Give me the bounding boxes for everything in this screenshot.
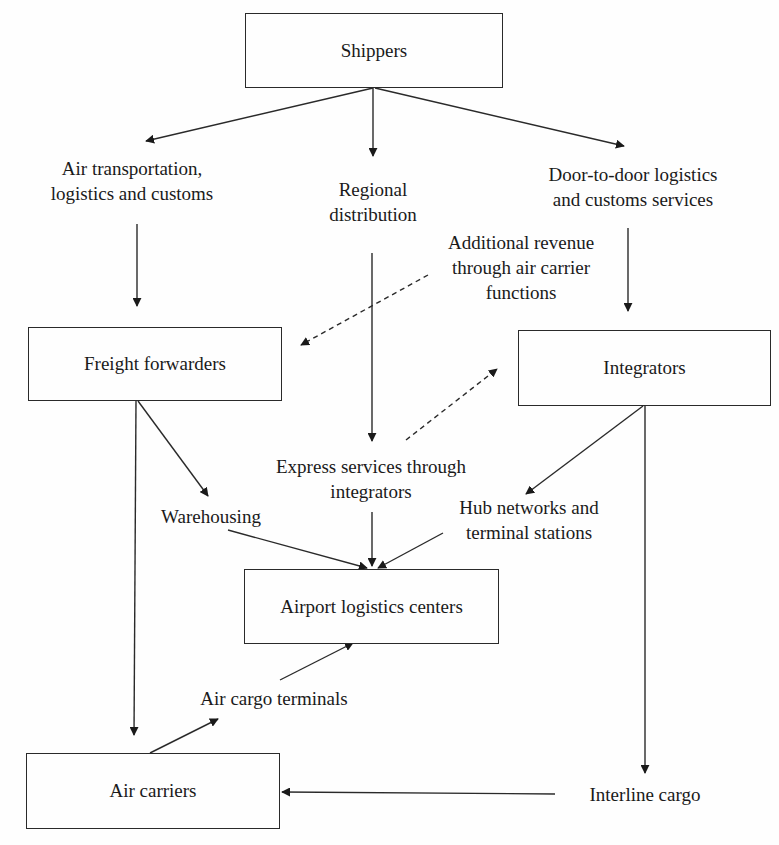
label-additional-revenue-line-3: functions	[448, 280, 594, 305]
arrow-warehousing-to-airport-logistics	[228, 530, 367, 568]
label-additional-revenue: Additional revenue through air carrier f…	[448, 230, 594, 305]
arrow-hub-networks-to-airport-logistics	[378, 533, 443, 568]
label-air-transportation-line-1: Air transportation,	[51, 156, 214, 181]
connector-arrows	[0, 0, 779, 845]
node-freight-forwarders-label: Freight forwarders	[84, 353, 226, 375]
arrow-air-cargo-terminals-to-airport-logistics	[280, 643, 353, 680]
node-integrators-label: Integrators	[603, 357, 685, 379]
label-express-services-line-2: integrators	[276, 479, 466, 504]
node-shippers-label: Shippers	[341, 40, 408, 62]
arrow-air-carriers-to-air-cargo-terminals	[150, 719, 218, 753]
label-door-to-door: Door-to-door logistics and customs servi…	[548, 162, 717, 212]
label-air-transportation: Air transportation, logistics and custom…	[51, 156, 214, 206]
label-regional-distribution-line-2: distribution	[329, 202, 417, 227]
label-interline-cargo: Interline cargo	[590, 782, 701, 807]
arrow-shippers-to-air-transportation	[146, 88, 373, 141]
label-express-services: Express services through integrators	[276, 454, 466, 504]
arrow-dashed-express-to-integrators	[406, 369, 497, 440]
label-air-transportation-line-2: logistics and customs	[51, 181, 214, 206]
node-integrators: Integrators	[518, 330, 771, 406]
label-additional-revenue-line-1: Additional revenue	[448, 230, 594, 255]
label-warehousing: Warehousing	[161, 504, 261, 529]
node-air-carriers: Air carriers	[26, 753, 280, 829]
label-air-cargo-terminals-text: Air cargo terminals	[200, 686, 347, 711]
label-additional-revenue-line-2: through air carrier	[448, 255, 594, 280]
label-express-services-line-1: Express services through	[276, 454, 466, 479]
node-freight-forwarders: Freight forwarders	[28, 327, 282, 401]
label-regional-distribution-line-1: Regional	[329, 177, 417, 202]
label-hub-networks-line-2: terminal stations	[459, 520, 598, 545]
arrow-integrators-to-hub-networks	[526, 406, 643, 494]
arrow-freight-forwarders-to-air-carriers	[134, 401, 136, 735]
label-door-to-door-line-2: and customs services	[548, 187, 717, 212]
label-warehousing-text: Warehousing	[161, 504, 261, 529]
label-hub-networks: Hub networks and terminal stations	[459, 495, 598, 545]
label-hub-networks-line-1: Hub networks and	[459, 495, 598, 520]
arrow-freight-forwarders-to-warehousing	[138, 401, 208, 496]
label-interline-cargo-text: Interline cargo	[590, 782, 701, 807]
label-regional-distribution: Regional distribution	[329, 177, 417, 227]
node-shippers: Shippers	[245, 13, 503, 88]
arrow-dashed-revenue-to-freight-forwarders	[301, 275, 428, 345]
node-air-carriers-label: Air carriers	[109, 780, 196, 802]
arrow-shippers-to-door-to-door	[375, 88, 624, 146]
arrow-interline-cargo-to-air-carriers	[282, 792, 555, 794]
node-airport-logistics-centers-label: Airport logistics centers	[280, 596, 463, 618]
label-air-cargo-terminals: Air cargo terminals	[200, 686, 347, 711]
node-airport-logistics-centers: Airport logistics centers	[244, 569, 499, 644]
diagram-canvas: Shippers Freight forwarders Integrators …	[0, 0, 779, 845]
label-door-to-door-line-1: Door-to-door logistics	[548, 162, 717, 187]
